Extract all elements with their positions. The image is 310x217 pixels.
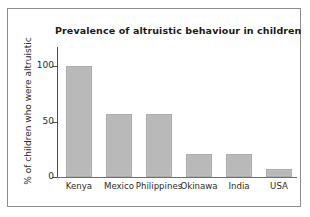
chart-title: Prevalence of altruistic behaviour in ch… <box>55 25 295 36</box>
x-label-usa: USA <box>239 181 310 191</box>
plot-area: 050100 KenyaMexicoPhilippinesOkinawaIndi… <box>57 47 297 177</box>
bar-india <box>226 154 252 177</box>
x-axis-line <box>57 177 297 178</box>
bar-mexico <box>106 114 132 177</box>
y-tick-label: 50 <box>43 116 54 126</box>
y-axis-label: % of children who were altruistic <box>23 36 33 186</box>
bar-usa <box>266 169 292 177</box>
chart-figure: Prevalence of altruistic behaviour in ch… <box>0 0 310 217</box>
bar-okinawa <box>186 154 212 177</box>
bar-kenya <box>66 66 92 177</box>
bar-philippines <box>146 114 172 177</box>
y-tick-label: 0 <box>48 171 54 181</box>
y-tick-label: 100 <box>37 60 54 70</box>
y-axis-line <box>57 47 58 177</box>
